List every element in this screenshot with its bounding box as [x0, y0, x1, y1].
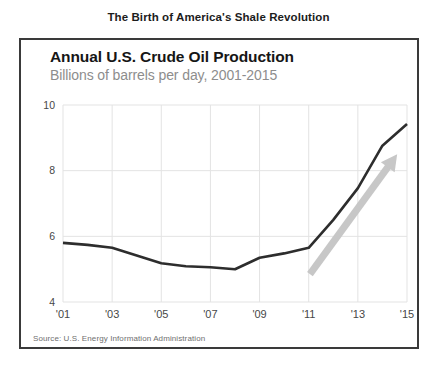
x-tick-label: '13	[351, 308, 365, 320]
source-note: Source: U.S. Energy Information Administ…	[33, 334, 205, 343]
x-tick-label: '09	[252, 308, 266, 320]
x-tick-label: '07	[203, 308, 217, 320]
line-chart: 46810'01'03'05'07'09'11'13'15	[21, 40, 417, 347]
figure-title: The Birth of America's Shale Revolution	[0, 11, 437, 23]
y-tick-label: 10	[43, 99, 55, 111]
x-tick-label: '03	[105, 308, 119, 320]
y-tick-label: 8	[49, 164, 55, 176]
x-tick-label: '15	[400, 308, 414, 320]
x-tick-label: '05	[154, 308, 168, 320]
production-line	[63, 124, 407, 269]
x-tick-label: '01	[56, 308, 70, 320]
chart-card: Annual U.S. Crude Oil Production Billion…	[19, 38, 419, 349]
x-tick-label: '11	[302, 308, 316, 320]
trend-arrow-shaft	[310, 166, 389, 275]
y-tick-label: 4	[49, 296, 55, 308]
y-tick-label: 6	[49, 230, 55, 242]
